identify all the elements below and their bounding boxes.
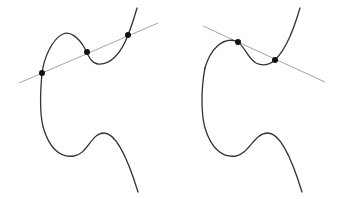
curve-upper-branch — [205, 8, 300, 68]
left-panel — [19, 8, 158, 192]
tangent-line — [203, 26, 325, 82]
intersection-point-2 — [84, 49, 90, 55]
intersection-point-3 — [125, 32, 131, 38]
tangent-point — [235, 39, 241, 45]
right-panel — [202, 8, 325, 192]
curve-lower-branch — [41, 73, 138, 192]
elliptic-curves-diagram — [0, 0, 342, 199]
curve-upper-branch — [42, 8, 137, 73]
curve-lower-branch — [202, 68, 302, 192]
intersection-point-1 — [39, 70, 45, 76]
intersection-point — [272, 57, 278, 63]
